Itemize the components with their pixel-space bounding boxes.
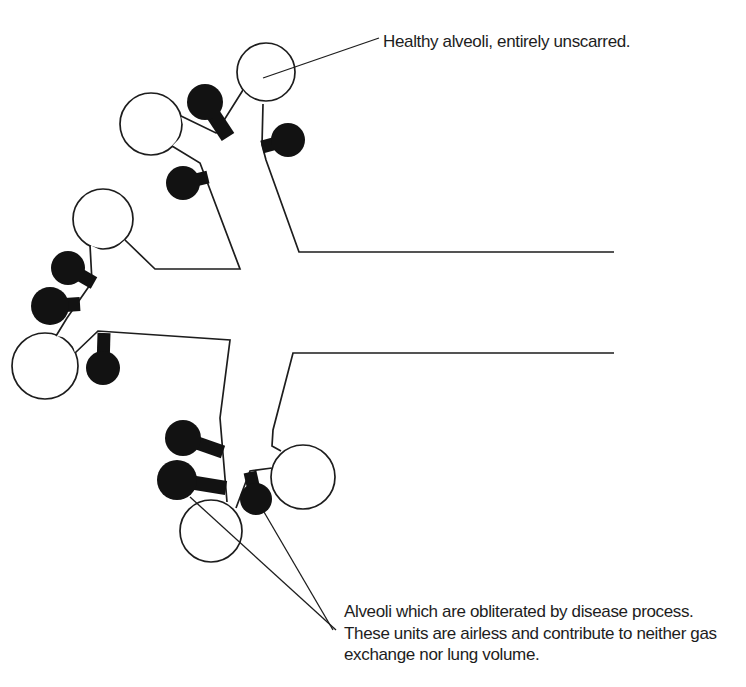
obliterated-label-line-3: exchange nor lung volume. (344, 644, 717, 666)
obliterated-alveolus (271, 123, 305, 157)
obliterated-label-leader-line-2 (264, 512, 333, 630)
obliterated-alveolus (51, 251, 85, 285)
obliterated-label-line-1: Alveoli which are obliterated by disease… (344, 601, 717, 623)
healthy-alveoli-label: Healthy alveoli, entirely unscarred. (383, 31, 630, 53)
obliterated-alveolus (166, 166, 200, 200)
healthy-alveolus-circle-bottom (180, 500, 242, 562)
wall-trunk-left-and-left-branch (125, 146, 240, 269)
obliterated-alveolus (187, 84, 223, 120)
obliterated-alveolus (157, 460, 197, 500)
obliterated-alveoli-label: Alveoli which are obliterated by disease… (344, 601, 717, 666)
healthy-alveolus-circle-lower-left (12, 333, 78, 399)
obliterated-alveolus (165, 420, 201, 456)
obliterated-alveolus (86, 351, 120, 385)
healthy-alveolus-circle-bottom-right (271, 445, 335, 509)
wall-trunk-right-upper-airway-top (262, 104, 614, 252)
obliterated-label-leader-line-1 (190, 497, 336, 630)
alveoli-diagram-canvas (0, 0, 746, 687)
obliterated-alveolus (240, 483, 272, 515)
obliterated-label-line-2: These units are airless and contribute t… (344, 623, 717, 645)
wall-airway-bottom-and-trunk-lower-right (272, 353, 614, 451)
obliterated-alveolus (31, 287, 69, 325)
alveoli-diagram: Healthy alveoli, entirely unscarred. Alv… (0, 0, 746, 687)
healthy-alveolus-circle-mid-left (73, 189, 133, 249)
healthy-alveolus-circle-top (237, 43, 295, 101)
